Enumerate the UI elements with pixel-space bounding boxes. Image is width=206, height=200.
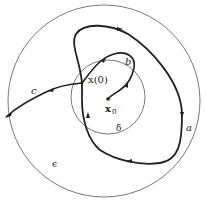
trajectory-a [74, 26, 182, 164]
epsilon-region-circle [8, 5, 200, 197]
initial-point-label: x(0) [88, 74, 108, 85]
equilibrium-subscript: 0 [112, 108, 116, 116]
trajectory-c [6, 83, 82, 117]
stability-diagram: x(0) x 0 a b c δ ϵ [0, 0, 206, 200]
trajectory-a-label: a [186, 122, 192, 133]
arrow-icon [180, 112, 184, 118]
trajectory-b-label: b [125, 56, 131, 67]
initial-point [81, 82, 84, 85]
trajectory-c-label: c [31, 85, 37, 96]
equilibrium-point [106, 97, 110, 101]
epsilon-label: ϵ [52, 159, 57, 169]
arrow-icon [86, 112, 90, 118]
delta-label: δ [116, 123, 121, 133]
equilibrium-label: x [105, 103, 112, 114]
